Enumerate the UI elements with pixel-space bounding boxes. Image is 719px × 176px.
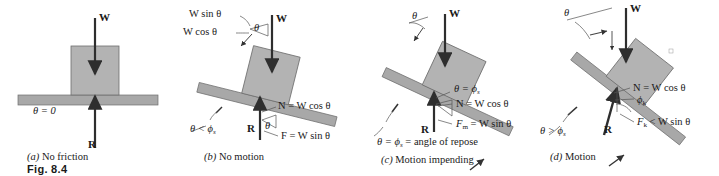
panel-d-theta-gt-main: θ > ϕ: [540, 125, 563, 136]
panel-c-theta-label: θ: [412, 11, 417, 22]
panel-b-friction-label: F = W sin θ: [281, 131, 330, 142]
panel-d-weight-label: W: [630, 3, 641, 14]
panel-d-angle-arc: [563, 111, 572, 122]
panel-a-reaction-label: R: [88, 139, 96, 150]
panel-d-component-arrow: [590, 31, 607, 35]
panel-b-wcos-label: W cos θ: [183, 27, 217, 38]
panel-c-component-arrow: [414, 28, 423, 41]
panel-d-theta-gt-sub: s: [563, 130, 566, 138]
panel-d-caption: (d) Motion: [550, 152, 596, 163]
panel-b-wsin-label: W sin θ: [189, 9, 221, 20]
panel-c-angle-arc: [386, 111, 393, 122]
panel-d-normal-label: N = W cos θ: [633, 83, 686, 94]
figure-number-label: Fig. 8.4: [27, 164, 67, 175]
panel-d-phik-sub: k: [642, 99, 646, 107]
panel-c-leader-repose: [374, 127, 383, 136]
panel-b-weight-label: W: [276, 13, 287, 24]
panel-d-kinetic-friction-label: Fk < W sin θ: [637, 117, 690, 129]
panel-a-caption-tag: (a): [27, 151, 39, 162]
panel-a-weight-label: W: [99, 12, 110, 23]
panel-d-theta-label: θ: [564, 8, 569, 19]
panel-a-theta-zero-label: θ = 0: [33, 106, 56, 117]
panel-c-angle-tick: [392, 104, 398, 112]
panel-d-fk-tail: < W sin θ: [647, 116, 690, 127]
panel-a-graphic: [18, 18, 158, 148]
panel-c-angle-of-repose-label: θ = ϕs = angle of repose: [377, 137, 478, 149]
panel-c-leader-Fm: [438, 120, 452, 124]
panel-d-caption-text: Motion: [565, 151, 596, 162]
panel-b-wcos-component-arrow: [241, 34, 252, 46]
panel-d-theta-greater-phis-label: θ > ϕs: [540, 126, 566, 138]
panel-c-caption: (c) Motion impending: [381, 155, 474, 166]
panel-b-theta-wedge-label: θ: [254, 23, 259, 34]
panel-d-plane-notch: [669, 49, 673, 53]
panel-c-caption-text: Motion impending: [395, 154, 473, 165]
panel-b-caption: (b) No motion: [204, 152, 264, 163]
panel-c-reaction-label: R: [421, 124, 429, 135]
panel-c-theta-eq-sub: s: [477, 88, 480, 96]
panel-c-theta-equals-phis-label: θ = ϕs: [454, 84, 480, 96]
panel-d-leader-Fk: [620, 114, 634, 122]
panel-b-angle-arc: [210, 112, 217, 120]
panel-c-normal-label: N = W cos θ: [456, 99, 509, 110]
panel-b-normal-label: N = W cos θ: [278, 101, 331, 112]
panel-c-max-friction-label: Fm = W sin θ: [456, 119, 511, 131]
panel-d-phik-label: ϕk: [637, 95, 646, 107]
panel-c-theta-eq-main: θ = ϕ: [454, 83, 477, 94]
panel-b-reaction-label: R: [247, 123, 255, 134]
panel-a-caption: (a) No friction: [27, 152, 88, 163]
panel-d-theta-arc: [575, 22, 590, 39]
panel-d-caption-tag: (d): [550, 151, 562, 162]
friction-inclined-plane-figure: [0, 0, 719, 176]
panel-b-leader-wsin: [240, 16, 250, 26]
panel-d-caption-arrow: [609, 155, 624, 166]
panel-b-leader-F: [264, 131, 278, 136]
panel-c-repose-tail: = angle of repose: [403, 136, 478, 147]
panel-a-caption-text: No friction: [42, 151, 88, 162]
panel-b-caption-tag: (b): [204, 151, 216, 162]
panel-b-theta-less-phis-main: θ < ϕ: [190, 123, 213, 134]
panel-b-caption-text: No motion: [219, 151, 264, 162]
panel-b-theta-less-phis-label: θ < ϕs: [190, 124, 216, 136]
panel-c-fm-tail: = W sin θ: [468, 118, 511, 129]
panel-d-reaction-label: R: [604, 124, 612, 135]
panel-b-theta-less-phis-sub: s: [213, 128, 216, 136]
panel-d-theta-guide: [567, 8, 612, 20]
panel-c-caption-tag: (c): [381, 154, 393, 165]
panel-a-ground: [18, 95, 158, 105]
panel-c-weight-label: W: [449, 8, 460, 19]
panel-b-theta-at-r-label: θ: [265, 121, 270, 132]
panel-c-repose-main: θ = ϕ: [377, 136, 400, 147]
